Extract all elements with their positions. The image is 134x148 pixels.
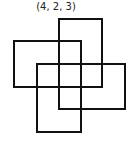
overlapping-rectangles-diagram: [0, 0, 134, 148]
